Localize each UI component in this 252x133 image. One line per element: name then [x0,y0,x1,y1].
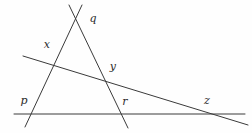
point-label-q: q [89,13,96,24]
line-right-descending [69,5,128,128]
point-label-p: p [20,95,27,106]
point-label-r: r [122,96,127,107]
point-label-y: y [110,61,116,72]
line-left-ascending [25,5,82,127]
point-label-z: z [204,95,210,106]
figure-canvas [0,0,252,133]
line-oblique-xyz [23,56,248,125]
point-label-x: x [44,39,50,50]
geometry-figure: q x y p r z [0,0,252,133]
